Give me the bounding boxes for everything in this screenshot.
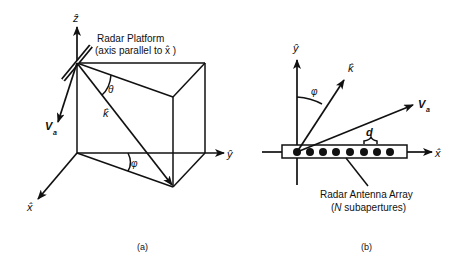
velocity-subscript: a (53, 129, 57, 136)
subaperture (386, 148, 394, 156)
subaperture (319, 148, 327, 156)
k-vector (77, 63, 172, 185)
x-axis-label-b: x̂ (434, 147, 441, 159)
phi-label: φ (131, 158, 138, 169)
panel-a: ẑ ŷ x̂ Radar Platform (axis parallel to … (26, 12, 234, 252)
panel-b: ŷ x̂ d k̂ V a φ Radar An (262, 42, 441, 252)
velocity-subscript-b: a (426, 106, 430, 113)
subaperture (332, 148, 340, 156)
panel-a-caption: (a) (137, 242, 148, 252)
subaperture (346, 148, 354, 156)
x-axis-label: x̂ (26, 201, 33, 213)
spacing-label: d (366, 126, 373, 138)
subaperture (306, 148, 314, 156)
array-label-line1: Radar Antenna Array (320, 189, 413, 200)
platform-label-line2: (axis parallel to x̂ ) (95, 45, 176, 56)
k-label-b: k̂ (348, 62, 354, 74)
phi-label-b: φ (311, 86, 318, 97)
y-axis-label-b: ŷ (292, 42, 300, 54)
phi-arc-b (297, 97, 322, 104)
spacing-bracket (364, 137, 377, 144)
subaperture (360, 148, 368, 156)
array-label-line2: (N subapertures) (331, 202, 406, 213)
y-axis-label: ŷ (226, 148, 234, 160)
subaperture (373, 148, 381, 156)
geometry-box (77, 63, 205, 187)
k-vector-b (297, 80, 344, 152)
platform-label-line1: Radar Platform (97, 33, 164, 44)
z-axis-label: ẑ (72, 12, 79, 24)
x-axis (38, 153, 77, 199)
theta-label: θ (108, 84, 114, 95)
array-leader-line (346, 158, 368, 186)
panel-b-caption: (b) (361, 242, 372, 252)
radar-geometry-figure: ẑ ŷ x̂ Radar Platform (axis parallel to … (0, 0, 465, 267)
k-label: k̂ (103, 107, 109, 119)
